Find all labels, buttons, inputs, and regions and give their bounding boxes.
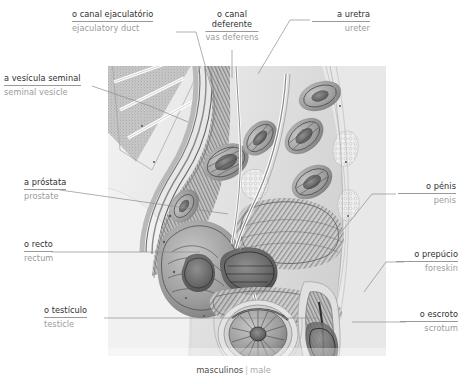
label-ejaculatory-duct: o canal ejaculatório ejaculatory duct xyxy=(72,10,153,33)
label-testicle-gloss: testicle xyxy=(44,318,87,329)
caption-separator: | xyxy=(243,365,250,375)
label-scrotum-gloss: scrotum xyxy=(400,322,458,333)
caption-pt: masculinos xyxy=(196,365,243,375)
label-prostate: a próstata prostate xyxy=(24,178,66,201)
label-foreskin: o prepúcio foreskin xyxy=(396,250,458,273)
label-seminal-vesicle: a vesícula seminal seminal vesicle xyxy=(4,74,81,97)
label-ureter: a uretra ureter xyxy=(312,10,370,33)
label-scrotum-term: o escroto xyxy=(400,310,458,322)
label-seminal-vesicle-gloss: seminal vesicle xyxy=(4,86,81,97)
caption-en: male xyxy=(250,365,271,375)
label-prostate-term: a próstata xyxy=(24,178,66,190)
label-prostate-gloss: prostate xyxy=(24,190,66,201)
label-testicle-term: o testículo xyxy=(44,306,87,318)
label-vas-deferens-term-line2: deferente xyxy=(205,20,258,32)
label-rectum-term: o recto xyxy=(24,240,53,252)
label-rectum: o recto rectum xyxy=(24,240,53,263)
label-ejaculatory-duct-term: o canal ejaculatório xyxy=(72,10,153,22)
figure-caption: masculinos|male xyxy=(0,365,467,375)
label-ejaculatory-duct-gloss: ejaculatory duct xyxy=(72,22,153,33)
label-penis: o pénis penis xyxy=(398,182,456,205)
anatomy-diagram-page: o canal ejaculatório ejaculatory duct o … xyxy=(0,0,467,384)
label-seminal-vesicle-term: a vesícula seminal xyxy=(4,74,81,86)
label-scrotum: o escroto scrotum xyxy=(400,310,458,333)
label-foreskin-gloss: foreskin xyxy=(396,262,458,273)
label-vas-deferens-gloss: vas deferens xyxy=(205,32,258,43)
label-ureter-term: a uretra xyxy=(312,10,370,22)
label-vas-deferens: o canal deferente vas deferens xyxy=(205,10,258,43)
label-penis-gloss: penis xyxy=(398,194,456,205)
label-testicle: o testículo testicle xyxy=(44,306,87,329)
label-penis-term: o pénis xyxy=(398,182,456,194)
label-rectum-gloss: rectum xyxy=(24,252,53,263)
anatomical-illustration xyxy=(108,66,386,356)
label-foreskin-term: o prepúcio xyxy=(396,250,458,262)
label-ureter-gloss: ureter xyxy=(312,22,370,33)
